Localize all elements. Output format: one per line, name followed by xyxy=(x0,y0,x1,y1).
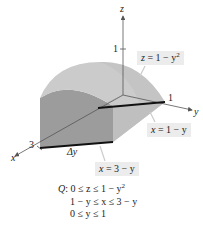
condition-text: 0 ≤ z ≤ 1 − y xyxy=(71,183,122,194)
leader-front xyxy=(100,146,105,161)
eq-rhs: = 1 − y xyxy=(155,124,186,135)
back-plane-equation: x = 1 − y xyxy=(147,123,191,137)
z-tick-label: 1 xyxy=(113,43,118,55)
condition-text: 1 − y ≤ x ≤ 3 − y xyxy=(70,196,137,207)
eq-exponent: 2 xyxy=(176,51,180,59)
leader-back xyxy=(150,112,155,122)
x-tick-label: 3 xyxy=(29,139,34,151)
eq-rhs: = 3 − y xyxy=(103,163,134,174)
top-surface-equation: z = 1 − y2 xyxy=(137,51,184,65)
y-axis-label: y xyxy=(194,106,198,118)
region-row-y: 0 ≤ y ≤ 1 xyxy=(58,208,137,221)
region-row-x: 1 − y ≤ x ≤ 3 − y xyxy=(58,196,137,209)
eq-rhs: = 1 − y xyxy=(145,52,176,63)
condition-exponent: 2 xyxy=(122,182,126,190)
y-tick-label: 1 xyxy=(168,92,173,104)
solid-region-figure: z 1 1 y 3 x Δy z = 1 − y2 x = 1 − y x = … xyxy=(0,0,203,231)
x-axis-label: x xyxy=(11,152,15,164)
region-definition: Q: 0 ≤ z ≤ 1 − y2 1 − y ≤ x ≤ 3 − y 0 ≤ … xyxy=(58,183,137,221)
z-axis-label: z xyxy=(120,3,124,15)
leader-top xyxy=(140,66,145,76)
delta-y-label: Δy xyxy=(67,146,77,158)
condition-text: 0 ≤ y ≤ 1 xyxy=(70,208,106,219)
front-plane-equation: x = 3 − y xyxy=(95,162,139,176)
region-row-z: Q: 0 ≤ z ≤ 1 − y2 xyxy=(58,183,137,196)
